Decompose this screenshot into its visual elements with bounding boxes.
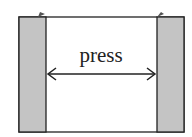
press-label: press xyxy=(79,43,122,67)
right-notch-icon xyxy=(157,12,164,17)
press-diagram: press xyxy=(0,0,192,137)
left-notch-icon xyxy=(38,12,45,17)
left-plate xyxy=(19,17,46,132)
right-plate xyxy=(157,17,184,132)
